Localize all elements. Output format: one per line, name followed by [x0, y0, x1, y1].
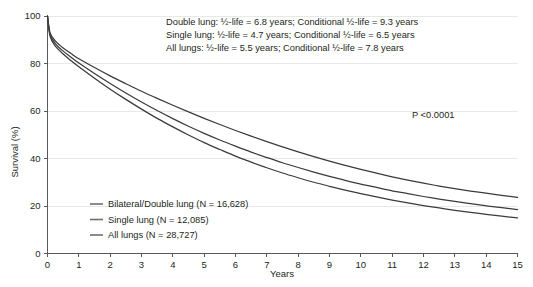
x-tick-label-13: 13: [450, 259, 461, 270]
y-tick-label-80: 80: [30, 58, 41, 69]
y-tick-label-60: 60: [30, 105, 41, 116]
survival-chart: 020406080100 0123456789101112131415 Surv…: [0, 0, 533, 287]
x-tick-label-2: 2: [108, 259, 113, 270]
legend-label-1: Single lung (N = 12,085): [108, 215, 209, 225]
halflife-annotation: Double lung: ½-life = 6.8 years; Conditi…: [166, 17, 419, 53]
x-tick-label-7: 7: [264, 259, 269, 270]
chart-canvas: 020406080100 0123456789101112131415 Surv…: [0, 0, 533, 287]
y-tick-label-20: 20: [30, 200, 41, 211]
y-tick-label-40: 40: [30, 153, 41, 164]
x-tick-label-4: 4: [170, 259, 175, 270]
annotation-line-0: Double lung: ½-life = 6.8 years; Conditi…: [166, 17, 419, 27]
y-axis: 020406080100: [25, 10, 48, 259]
x-tick-label-15: 15: [512, 259, 523, 270]
x-tick-label-10: 10: [356, 259, 367, 270]
x-tick-label-1: 1: [76, 259, 81, 270]
annotation-line-2: All lungs: ½-life = 5.5 years; Condition…: [166, 43, 404, 53]
x-tick-label-12: 12: [418, 259, 429, 270]
x-tick-label-8: 8: [296, 259, 301, 270]
y-tick-labels: 020406080100: [25, 10, 41, 259]
legend-label-2: All lungs (N = 28,727): [108, 230, 198, 240]
legend-label-0: Bilateral/Double lung (N = 16,628): [108, 199, 248, 209]
x-tick-label-6: 6: [233, 259, 238, 270]
y-tick-label-100: 100: [25, 10, 41, 21]
y-axis-title: Survival (%): [9, 126, 20, 177]
annotation-line-1: Single lung: ½-life = 4.7 years; Conditi…: [166, 30, 415, 40]
x-axis-title: Years: [270, 268, 294, 279]
x-tick-label-9: 9: [327, 259, 332, 270]
pvalue-annotation: P <0.0001: [412, 110, 454, 120]
x-tick-label-14: 14: [481, 259, 492, 270]
x-tick-label-5: 5: [202, 259, 207, 270]
legend: Bilateral/Double lung (N = 16,628)Single…: [90, 199, 248, 240]
x-tick-label-3: 3: [139, 259, 144, 270]
y-tick-label-0: 0: [35, 248, 40, 259]
x-tick-label-0: 0: [45, 259, 50, 270]
x-tick-label-11: 11: [387, 259, 397, 270]
